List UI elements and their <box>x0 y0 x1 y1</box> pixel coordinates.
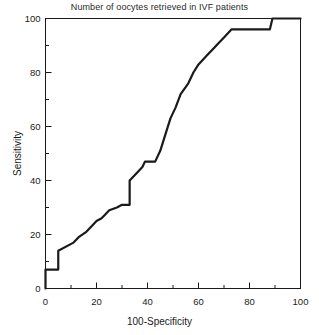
y-tick-label: 40 <box>30 175 41 186</box>
y-axis-label: Sensitivity <box>12 104 23 204</box>
x-axis-label: 100-Specificity <box>0 316 319 327</box>
x-tick-label: 20 <box>91 296 102 307</box>
y-tick-label: 0 <box>35 283 40 294</box>
x-tick-label: 100 <box>293 296 309 307</box>
plot-area: 020406080100 020406080100 <box>0 0 319 335</box>
y-tick-label: 80 <box>30 67 41 78</box>
roc-chart: Number of oocytes retrieved in IVF patie… <box>0 0 319 335</box>
x-tick-label: 0 <box>43 296 48 307</box>
x-tick-label: 40 <box>142 296 153 307</box>
y-tick-label: 60 <box>30 121 41 132</box>
x-tick-label: 80 <box>244 296 255 307</box>
plot-frame <box>46 19 301 289</box>
x-tick-label: 60 <box>193 296 204 307</box>
y-tick-label: 20 <box>30 229 41 240</box>
y-tick-label: 100 <box>25 13 41 24</box>
